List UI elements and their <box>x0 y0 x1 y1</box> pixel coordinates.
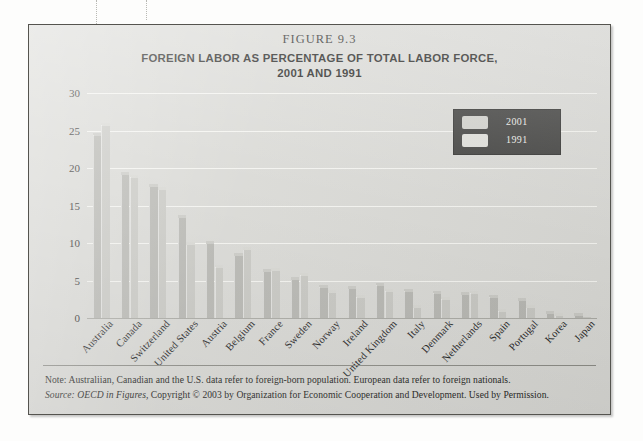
bar-group <box>427 93 455 318</box>
bar-2001 <box>234 256 242 318</box>
bar-top <box>441 297 449 300</box>
bar-2001 <box>433 293 441 318</box>
bar-edge <box>234 256 235 318</box>
bar-edge <box>461 295 462 318</box>
bar-edge <box>498 311 499 318</box>
bar-1991 <box>130 177 138 318</box>
bar-edge <box>243 250 244 318</box>
bar-top <box>470 291 478 294</box>
bar-top <box>149 184 157 187</box>
bar-2001 <box>518 301 526 318</box>
figure-note: Note: Australiian, Canadian and the U.S.… <box>45 374 596 385</box>
bar-face <box>243 250 251 318</box>
x-axis-label: France <box>257 318 285 347</box>
legend-swatch-1991 <box>462 134 488 147</box>
figure-title-line-1: FOREIGN LABOR AS PERCENTAGE OF TOTAL LAB… <box>141 52 498 64</box>
bar-edge <box>489 297 490 318</box>
bar-face <box>130 177 138 318</box>
bar-group <box>144 93 172 318</box>
bar-top <box>300 273 308 276</box>
bar-top <box>319 285 327 288</box>
bar-top <box>385 289 393 292</box>
bar-group <box>569 93 597 318</box>
figure-number: FIGURE 9.3 <box>29 32 610 47</box>
legend-item-2001: 2001 <box>462 115 554 131</box>
bar-edge <box>271 271 272 318</box>
bar-group <box>229 93 257 318</box>
bar-top <box>263 269 271 272</box>
bar-face <box>461 295 469 318</box>
source-label: Source: <box>45 389 75 400</box>
bar-edge <box>93 135 94 318</box>
bar-top <box>328 290 336 293</box>
bar-edge <box>441 299 442 318</box>
bar-2001 <box>93 135 101 318</box>
bar-edge <box>149 187 150 318</box>
bar-top <box>291 277 299 280</box>
bar-edge <box>470 293 471 318</box>
bar-group <box>399 93 427 318</box>
bar-edge <box>130 177 131 318</box>
bar-top <box>413 305 421 308</box>
bar-top <box>461 292 469 295</box>
bar-edge <box>158 190 159 318</box>
bar-2001 <box>291 280 299 318</box>
legend-label-2001: 2001 <box>506 116 528 127</box>
bar-edge <box>348 289 349 318</box>
bar-2001 <box>263 272 271 319</box>
bar-top <box>404 289 412 292</box>
bar-1991 <box>470 293 478 318</box>
crop-mark <box>96 0 98 26</box>
bar-top <box>356 295 364 298</box>
bar-edge <box>186 245 187 319</box>
bar-1991 <box>385 291 393 318</box>
legend-swatch-2001 <box>462 116 488 129</box>
bar-edge <box>300 275 301 318</box>
bar-edge <box>215 267 216 318</box>
chart-legend: 2001 1991 <box>453 109 561 155</box>
bar-face <box>178 218 186 319</box>
bar-face <box>271 271 279 318</box>
bar-top <box>489 295 497 298</box>
bar-2001 <box>121 175 129 318</box>
bar-edge <box>319 287 320 318</box>
bar-face <box>498 311 506 318</box>
y-axis-tick-label: 20 <box>69 162 80 174</box>
bar-edge <box>413 308 414 319</box>
y-axis-tick-label: 10 <box>69 237 80 249</box>
bar-1991 <box>158 190 166 318</box>
bar-group <box>200 93 228 318</box>
page-background: FIGURE 9.3 FOREIGN LABOR AS PERCENTAGE O… <box>0 0 643 441</box>
y-axis-tick-label: 25 <box>69 125 80 137</box>
bar-top <box>158 187 166 190</box>
x-axis-label: Spain <box>487 318 512 344</box>
y-axis-tick-label: 30 <box>69 87 80 99</box>
bar-face <box>149 187 157 318</box>
bar-edge <box>263 272 264 319</box>
bar-face <box>413 308 421 319</box>
bar-top <box>130 175 138 178</box>
bar-face <box>93 135 101 318</box>
bar-2001 <box>489 297 497 318</box>
legend-item-1991: 1991 <box>462 133 554 149</box>
y-axis-tick-label: 15 <box>69 200 80 212</box>
x-axis-label: Italy <box>405 318 427 340</box>
bar-face <box>404 291 412 318</box>
bar-top <box>234 253 242 256</box>
bar-face <box>328 293 336 319</box>
bar-1991 <box>413 308 421 319</box>
bar-1991 <box>300 275 308 318</box>
x-axis-label: Australia <box>80 318 116 355</box>
bar-1991 <box>498 311 506 318</box>
bar-face <box>518 301 526 318</box>
bar-edge <box>121 175 122 318</box>
bar-edge <box>206 244 207 318</box>
bar-group <box>115 93 143 318</box>
bar-group <box>172 93 200 318</box>
bar-1991 <box>186 245 194 319</box>
bar-top <box>101 123 109 126</box>
bar-group <box>87 93 115 318</box>
x-axis-label: Belgium <box>223 318 257 353</box>
bar-2001 <box>348 289 356 318</box>
bar-face <box>300 275 308 318</box>
